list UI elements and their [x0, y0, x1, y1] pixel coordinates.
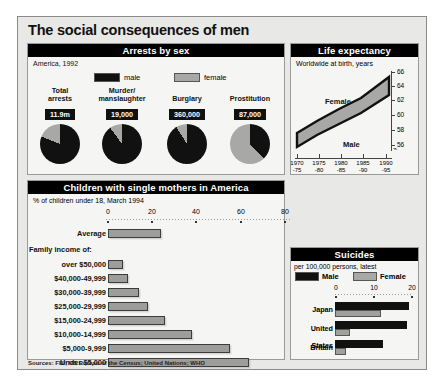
panel-suicides: Suicides per 100,000 persons, latest Mal… [290, 247, 419, 360]
life-subtitle: Worldwide at birth, years [296, 60, 373, 67]
mothers-bar-6 [108, 344, 230, 353]
suicides-bar-female-1 [335, 329, 350, 336]
series-label-female: Female [325, 97, 351, 106]
mothers-row-4: $15,000-24,999 [28, 315, 284, 326]
mothers-x-axis: 0 20 40 60 80 [28, 208, 284, 222]
mothers-xtick-0: 0 [98, 208, 118, 215]
legend-label-male: male [124, 73, 140, 82]
suicides-bar-female-2 [335, 348, 346, 355]
legend-swatch-male [94, 73, 120, 82]
life-ytick-3: 60 [397, 111, 404, 118]
suicides-row-label-0: Japan [291, 301, 333, 318]
legend-swatch-suicide-female [353, 272, 377, 281]
life-x-axis [295, 158, 392, 159]
life-xtick-4: 1990-95 [375, 160, 397, 174]
pie-label-line2-1: manslaughter [98, 94, 145, 103]
page-title: The social consequences of men [28, 22, 249, 38]
pie-value-3: 87,000 [234, 109, 266, 120]
series-label-male: Male [343, 140, 360, 149]
mothers-row-label-5: $10,000-14,999 [28, 329, 106, 340]
mothers-row-label-1: $40,000-49,999 [28, 273, 106, 284]
suicides-bar-female-0 [335, 310, 381, 317]
life-ytick-0: 66 [397, 68, 404, 75]
suicides-subtitle: per 100,000 persons, latest [294, 263, 376, 270]
mothers-row-6: $5,000-9,999 [28, 343, 284, 354]
mothers-row-label-0: over $50,000 [28, 259, 106, 270]
pie-chart-burglary [167, 124, 207, 164]
life-xtick-2: 1980-85 [330, 160, 352, 174]
pie-group-prostitution: Prostitution 87,000 [220, 87, 280, 164]
mothers-bar-1 [108, 274, 128, 283]
mothers-bar-5 [108, 330, 192, 339]
panel-arrests-by-sex: Arrests by sex America, 1992 male female… [27, 43, 285, 175]
pie-label-line1-3: Prostitution [230, 94, 270, 103]
suicides-row-us: United States [291, 320, 418, 337]
life-xtick-3: 1985-90 [352, 160, 374, 174]
panel-life-expectancy: Life expectancy Worldwide at birth, year… [290, 43, 419, 175]
mothers-row-3: $25,000-29,999 [28, 301, 284, 312]
pie-label-line1-2: Burglary [172, 94, 202, 103]
suicides-xtick-2: 20 [404, 284, 420, 291]
legend-label-suicide-female: Female [380, 272, 406, 281]
mothers-row-label-average: Average [28, 228, 106, 239]
life-ytick-5: 56 [397, 141, 404, 148]
arrests-body: America, 1992 male female Totalarrests 1… [28, 57, 284, 175]
pie-chart-murder [102, 124, 142, 164]
life-xtick-0: 1970-75 [286, 160, 308, 174]
suicides-row-britain: Britain [291, 339, 418, 356]
mothers-xtick-3: 60 [231, 208, 251, 215]
legend-swatch-female [174, 73, 200, 82]
life-y-axis [391, 71, 392, 151]
pie-value-2: 360,000 [169, 109, 205, 120]
mothers-xtick-4: 80 [275, 208, 295, 215]
mothers-group-label: Family income of: [29, 245, 92, 254]
mothers-bar-average [108, 229, 161, 238]
mothers-subtitle: % of children under 18, March 1994 [33, 197, 144, 204]
pie-chart-prostitution [230, 124, 270, 164]
pie-group-total-arrests: Totalarrests 11.9m [30, 87, 90, 164]
life-ytick-1: 64 [397, 82, 404, 89]
mothers-row-label-6: $5,000-9,999 [28, 343, 106, 354]
mothers-row-label-4: $15,000-24,999 [28, 315, 106, 326]
mothers-bar-3 [108, 302, 148, 311]
suicides-bar-male-2 [335, 340, 383, 348]
mothers-body: % of children under 18, March 1994 0 20 … [28, 194, 284, 360]
life-xtick-1: 1975-80 [308, 160, 330, 174]
sources-note: Sources: FBI; US Bureau of the Census; U… [28, 360, 205, 366]
mothers-xtick-1: 20 [142, 208, 162, 215]
mothers-row-label-3: $25,000-29,999 [28, 301, 106, 312]
mothers-bar-2 [108, 288, 139, 297]
life-body: Worldwide at birth, years 66 64 62 60 58… [291, 57, 418, 175]
panel-single-mothers: Children with single mothers in America … [27, 180, 285, 360]
pie-group-burglary: Burglary 360,000 [157, 87, 217, 164]
suicides-row-japan: Japan [291, 301, 418, 318]
arrests-subtitle: America, 1992 [33, 60, 78, 67]
pie-value-1: 19,000 [106, 109, 138, 120]
suicides-xtick-0: 0 [328, 284, 344, 291]
panel-title-mothers: Children with single mothers in America [28, 181, 284, 194]
infographic-card: The social consequences of men Arrests b… [17, 16, 427, 370]
suicides-bar-male-1 [335, 321, 407, 329]
legend-label-female: female [204, 73, 227, 82]
pie-chart-total-arrests [40, 124, 80, 164]
panel-title-suicides: Suicides [291, 248, 418, 261]
life-expectancy-area [293, 71, 391, 151]
mothers-bar-0 [108, 260, 123, 269]
mothers-row-2: $30,000-39,999 [28, 287, 284, 298]
suicides-body: per 100,000 persons, latest Male Female … [291, 261, 418, 360]
suicides-legend: Male Female [293, 272, 419, 282]
mothers-xtick-2: 40 [186, 208, 206, 215]
pie-label-line2-0: arrests [48, 94, 72, 103]
life-ytick-2: 62 [397, 96, 404, 103]
mothers-row-1: $40,000-49,999 [28, 273, 284, 284]
mothers-row-label-2: $30,000-39,999 [28, 287, 106, 298]
pie-group-murder: Murder/manslaughter 19,000 [92, 87, 152, 164]
suicides-xtick-1: 10 [366, 284, 382, 291]
mothers-row-average: Average [28, 228, 284, 239]
legend-label-suicide-male: Male [322, 272, 339, 281]
arrests-legend: male female [94, 73, 274, 83]
mothers-bar-4 [108, 316, 165, 325]
mothers-row-0: over $50,000 [28, 259, 284, 270]
mothers-row-5: $10,000-14,999 [28, 329, 284, 340]
pie-value-0: 11.9m [45, 109, 75, 120]
